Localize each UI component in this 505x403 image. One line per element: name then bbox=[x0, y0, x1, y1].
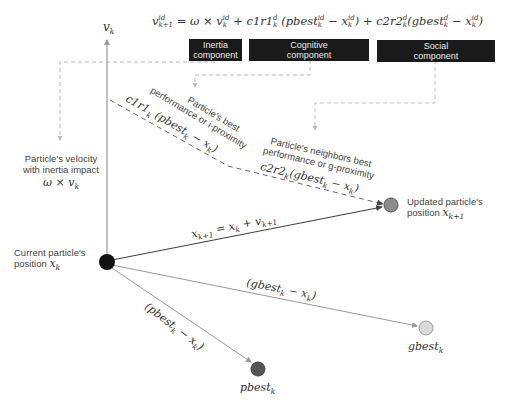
pso-diagram: vidk+1 = ω × vidk + c1r1dk (pbestidk − x… bbox=[0, 0, 505, 403]
cognitive-term: + c1r1dk (pbestidk − xidk) bbox=[233, 14, 359, 28]
velocity-axis-label: vk bbox=[103, 20, 114, 36]
velocity-equation: vidk+1 = ω × vidk + c1r1dk (pbestidk − x… bbox=[152, 14, 483, 29]
gbest-particle bbox=[419, 321, 433, 335]
pbest-vector bbox=[112, 268, 251, 362]
velocity-math: ω × vk bbox=[43, 176, 79, 191]
velocity-description: Particle's velocity with inertia impact bbox=[20, 153, 102, 175]
update-vector bbox=[112, 207, 382, 260]
inertia-term: ω × vidk bbox=[190, 14, 230, 28]
updated-particle bbox=[384, 198, 398, 212]
cognitive-component-box: Cognitive component bbox=[249, 39, 369, 61]
social-connector bbox=[315, 60, 435, 130]
pbest-particle bbox=[251, 362, 265, 376]
current-position-label: Current particle's position xk bbox=[14, 247, 86, 273]
social-component-box: Social component bbox=[377, 40, 495, 62]
social-term: + c2r2dk(gbestdk − xidk) bbox=[363, 14, 483, 28]
pbest-node-label: pbestk bbox=[240, 381, 275, 396]
current-particle bbox=[99, 254, 115, 270]
cognitive-connector bbox=[195, 60, 310, 87]
updated-position-label: Updated particle's position xk+1 bbox=[407, 196, 483, 222]
inertia-component-box: Inertia component bbox=[189, 39, 242, 61]
gbest-node-label: gbestk bbox=[408, 340, 443, 355]
